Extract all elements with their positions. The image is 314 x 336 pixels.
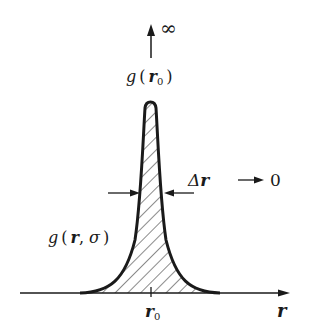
sub-0: 0 (157, 76, 163, 87)
axis-arrowhead-icon (278, 290, 290, 297)
infinity-symbol: ∞ (160, 16, 177, 40)
curve-label: g(r,σ) (48, 228, 109, 247)
delta-symbol: Δ (188, 170, 200, 190)
paren-close: ) (103, 228, 109, 247)
diagram-canvas: ∞ g(r0) Δr 0 g(r,σ) r0 r (0, 0, 314, 336)
paren-open: ( (61, 228, 67, 247)
var-r: r (145, 301, 154, 321)
axis-label: r (277, 300, 286, 321)
comma: , (79, 228, 84, 247)
infinity-label: ∞ (160, 16, 177, 40)
paren-open: ( (139, 67, 145, 86)
delta-r-label: Δr (188, 170, 209, 190)
r0-tick-label: r0 (145, 301, 160, 322)
peak-value-label: g(r0) (126, 67, 173, 87)
left-arrow-icon (164, 190, 174, 197)
limit-zero-label: 0 (270, 170, 281, 190)
paren-close: ) (166, 67, 172, 86)
infinity-arrow (147, 24, 155, 58)
func-g: g (48, 228, 58, 247)
var-r: r (149, 67, 157, 86)
up-arrow-icon (147, 24, 155, 36)
var-r: r (277, 300, 286, 321)
var-r: r (71, 228, 79, 247)
hatched-area (80, 95, 225, 295)
sigma: σ (89, 228, 100, 247)
func-g: g (126, 67, 136, 86)
sub-0: 0 (154, 311, 160, 322)
diagram-svg (0, 0, 314, 336)
limit-arrow (238, 177, 264, 184)
right-arrow-icon (254, 177, 264, 184)
zero: 0 (270, 170, 281, 190)
var-r: r (200, 170, 209, 190)
